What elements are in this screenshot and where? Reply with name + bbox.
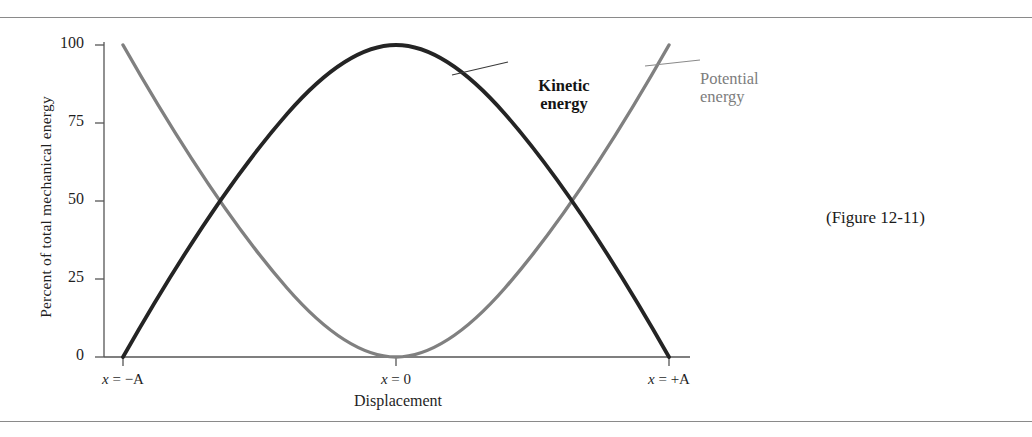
y-tick-label-75: 75 bbox=[38, 112, 84, 130]
curve-label-line: Kinetic bbox=[538, 76, 589, 95]
y-tick-label-100: 100 bbox=[38, 34, 84, 52]
page-rule-top bbox=[0, 17, 1032, 18]
plot-graphics bbox=[0, 20, 760, 420]
potential-energy-label: Potentialenergy bbox=[700, 70, 820, 107]
page-rule-bottom bbox=[0, 421, 1032, 422]
figure-container: Percent of total mechanical energy 100 7… bbox=[0, 0, 1032, 437]
curve-label-line: energy bbox=[700, 87, 745, 106]
kinetic-energy-label: Kineticenergy bbox=[508, 77, 620, 114]
x-tick-label-plus-a: x = +A bbox=[609, 371, 729, 388]
x-axis-title: Displacement bbox=[278, 392, 518, 410]
potential-label-leader-line bbox=[645, 60, 700, 66]
y-tick-label-0: 0 bbox=[38, 346, 84, 364]
curve-label-line: energy bbox=[540, 94, 588, 113]
curve-label-line: Potential bbox=[700, 69, 759, 88]
kinetic-label-leader-line bbox=[452, 62, 508, 75]
y-tick-label-25: 25 bbox=[38, 268, 84, 286]
x-tick-label-zero: x = 0 bbox=[336, 371, 456, 388]
figure-caption: (Figure 12-11) bbox=[826, 208, 925, 228]
y-axis-ticks bbox=[95, 45, 104, 357]
y-tick-label-50: 50 bbox=[38, 190, 84, 208]
x-tick-label-minus-a: x = −A bbox=[63, 371, 183, 388]
energy-plot: Percent of total mechanical energy 100 7… bbox=[0, 20, 760, 420]
